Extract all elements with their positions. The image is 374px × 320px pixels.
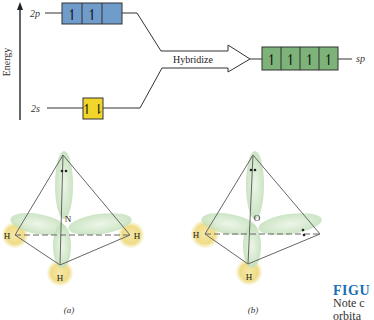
level-2s-label: 2s bbox=[31, 103, 40, 114]
level-2p: 2p ↿ ↿ bbox=[30, 3, 122, 24]
electron-pair: ↿⇂ bbox=[81, 101, 104, 117]
orbital-lobe bbox=[55, 151, 73, 219]
level-2p-label: 2p bbox=[30, 8, 40, 19]
electron-up: ↿ bbox=[303, 51, 316, 69]
panel-label-a: (a) bbox=[64, 305, 75, 315]
figure-caption: FIGU Note c orbita bbox=[333, 284, 374, 320]
hybridize-label: Hybridize bbox=[173, 54, 214, 65]
orbital-lobe bbox=[243, 224, 261, 268]
level-2s: 2s ↿⇂ bbox=[31, 98, 105, 119]
hydrogen-label: H bbox=[4, 231, 11, 241]
molecule-ammonia: N H H H (a) bbox=[2, 151, 144, 315]
molecule-water: O H H (b) bbox=[191, 151, 323, 315]
level-sp3: ↿ ↿ ↿ ↿ sp bbox=[262, 47, 365, 70]
lone-pair-dot bbox=[65, 170, 68, 173]
central-atom-o: O bbox=[254, 213, 261, 223]
level-sp3-label: sp bbox=[356, 53, 365, 64]
lone-pair-dot bbox=[254, 169, 257, 172]
lone-pair-dot bbox=[302, 229, 305, 232]
hydrogen-label: H bbox=[134, 231, 141, 241]
lone-pair-dot bbox=[61, 170, 64, 173]
caption-line: orbita bbox=[333, 310, 374, 320]
energy-axis: Energy bbox=[1, 2, 23, 120]
electron-up: ↿ bbox=[66, 6, 79, 24]
lone-pair-dot bbox=[250, 169, 253, 172]
energy-label: Energy bbox=[1, 48, 12, 77]
hydrogen-label: H bbox=[57, 273, 64, 283]
electron-up: ↿ bbox=[265, 51, 278, 69]
panel-label-b: (b) bbox=[248, 305, 259, 315]
central-atom-n: N bbox=[65, 214, 72, 224]
hydrogen-label: H bbox=[193, 230, 200, 240]
lone-pair-dot bbox=[303, 234, 306, 237]
electron-up: ↿ bbox=[322, 51, 335, 69]
electron-up: ↿ bbox=[284, 51, 297, 69]
arrow-up-icon bbox=[17, 2, 23, 10]
hydrogen-label: H bbox=[246, 272, 253, 282]
electron-up: ↿ bbox=[86, 6, 99, 24]
